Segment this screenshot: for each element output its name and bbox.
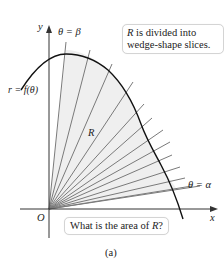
y-axis-arrow-icon <box>46 25 52 33</box>
note-line-2: wedge-shape slices. <box>127 39 219 51</box>
ray-label-beta: θ = β <box>58 27 81 38</box>
question-suffix: ? <box>158 220 163 231</box>
ray-label-alpha: θ = α <box>188 180 211 191</box>
note-line-1: R is divided into <box>127 27 219 39</box>
note-line-1-text: is divided into <box>133 27 196 38</box>
figure-caption: (a) <box>105 248 117 259</box>
x-axis-label: x <box>210 213 215 224</box>
curve-label: r = f(θ) <box>8 85 38 95</box>
note-area-question: What is the area of R? <box>64 217 169 235</box>
region-label: R <box>88 128 94 139</box>
question-prefix: What is the area of <box>70 220 152 231</box>
y-axis-label: y <box>38 22 43 33</box>
origin-label: O <box>37 213 45 224</box>
note-wedge-slices: R is divided into wedge-shape slices. <box>122 24 224 54</box>
